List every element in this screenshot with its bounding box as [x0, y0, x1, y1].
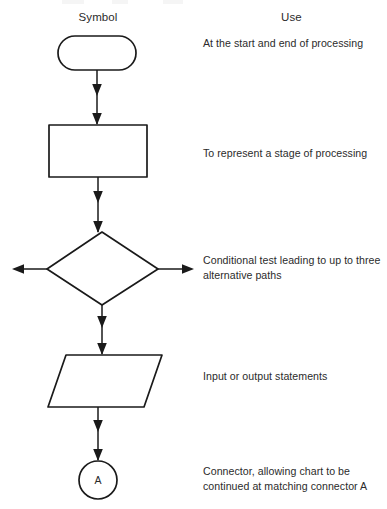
symbol-terminator — [58, 36, 136, 70]
arrowhead-icon — [182, 264, 194, 274]
symbol-input-output — [48, 355, 162, 407]
use-description-terminator: At the start and end of processing — [203, 36, 387, 51]
arrowhead-icon — [12, 264, 24, 274]
flowchart-symbol-legend: Symbol Use — [0, 0, 387, 509]
arrowhead-icon — [92, 113, 102, 125]
connector-label-a: A — [78, 474, 118, 486]
arrowhead-icon — [97, 316, 107, 328]
use-description-decision: Conditional test leading to up to three … — [203, 253, 387, 282]
symbol-decision — [47, 232, 158, 305]
arrowhead-icon — [93, 191, 103, 203]
arrowhead-icon — [93, 420, 103, 432]
arrowhead-icon — [97, 343, 107, 355]
arrowhead-icon — [93, 449, 103, 461]
use-description-connector: Connector, allowing chart to be continue… — [203, 464, 387, 493]
arrowhead-icon — [92, 84, 102, 96]
arrowhead-icon — [93, 221, 103, 233]
use-description-process: To represent a stage of processing — [203, 146, 387, 161]
symbol-process — [49, 125, 147, 177]
use-description-input-output: Input or output statements — [203, 369, 387, 384]
